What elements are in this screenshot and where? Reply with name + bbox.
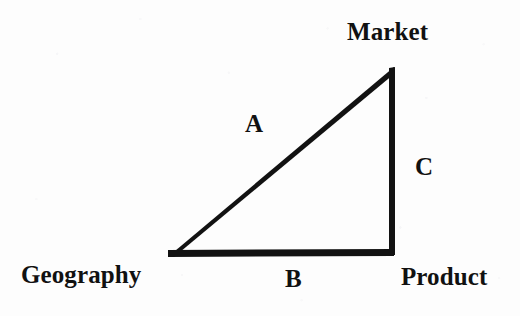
edge-a-path [169,67,394,257]
diagram-canvas: Market Geography Product A B C [0,0,520,316]
edge-label-a: A [245,111,263,136]
edge-b-path [168,249,394,257]
vertex-label-geography: Geography [21,262,141,287]
edge-label-b: B [285,266,302,291]
vertex-label-product: Product [401,264,487,289]
vertex-label-market: Market [347,19,428,44]
edge-c-path [389,67,395,255]
edge-label-c: C [415,154,433,179]
